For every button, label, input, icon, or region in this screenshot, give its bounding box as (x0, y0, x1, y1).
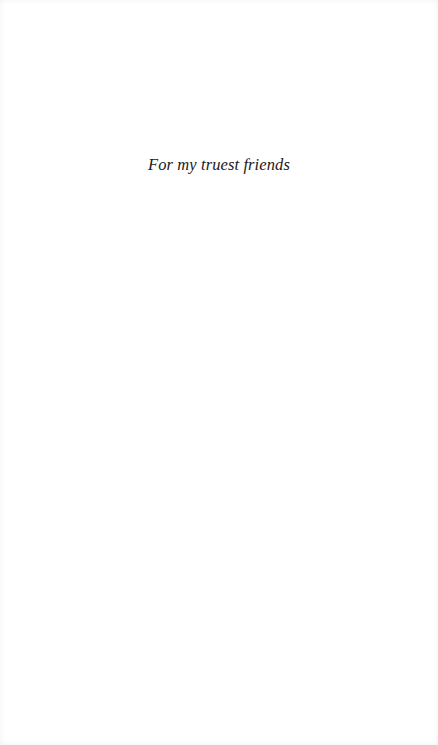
dedication-page: For my truest friends (0, 0, 438, 745)
dedication-text: For my truest friends (0, 155, 438, 175)
